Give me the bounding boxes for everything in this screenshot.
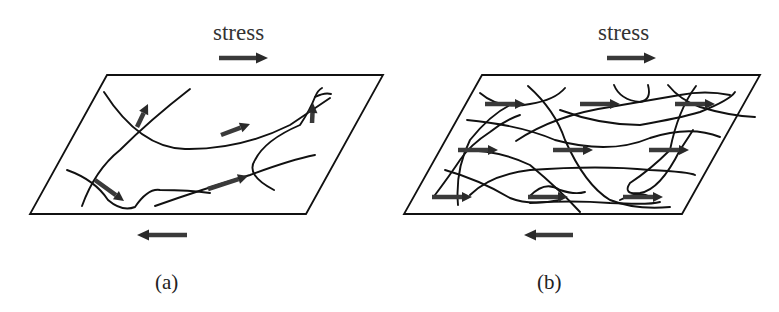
- fiber: [530, 202, 660, 204]
- panel-a-caption: (a): [155, 270, 178, 294]
- panel-b-stress-top-arrow-icon: [607, 53, 656, 64]
- panel-b: stress (b): [404, 20, 760, 294]
- force-arrow-icon: [137, 104, 148, 127]
- panel-b-stress-label: stress: [598, 20, 649, 45]
- force-arrow-icon: [432, 192, 472, 202]
- panel-b-stress-bottom-arrow-icon: [524, 230, 573, 241]
- panel-b-caption: (b): [537, 270, 562, 294]
- fiber: [252, 88, 322, 190]
- panel-a-stress-top-arrow-icon: [219, 53, 268, 64]
- panel-a-stress-label: stress: [213, 20, 264, 45]
- panel-a-stress-bottom-arrow-icon: [137, 230, 187, 241]
- fiber: [467, 120, 720, 147]
- force-arrow-icon: [208, 174, 248, 189]
- stress-fiber-diagram: stress (a) stress (b): [0, 0, 779, 312]
- panel-a-force-arrows: [95, 103, 317, 201]
- force-arrow-icon: [580, 99, 620, 109]
- force-arrow-icon: [221, 123, 250, 135]
- fiber: [530, 186, 585, 196]
- fiber: [614, 85, 649, 102]
- fiber: [435, 115, 520, 195]
- panel-a: stress (a): [30, 20, 383, 294]
